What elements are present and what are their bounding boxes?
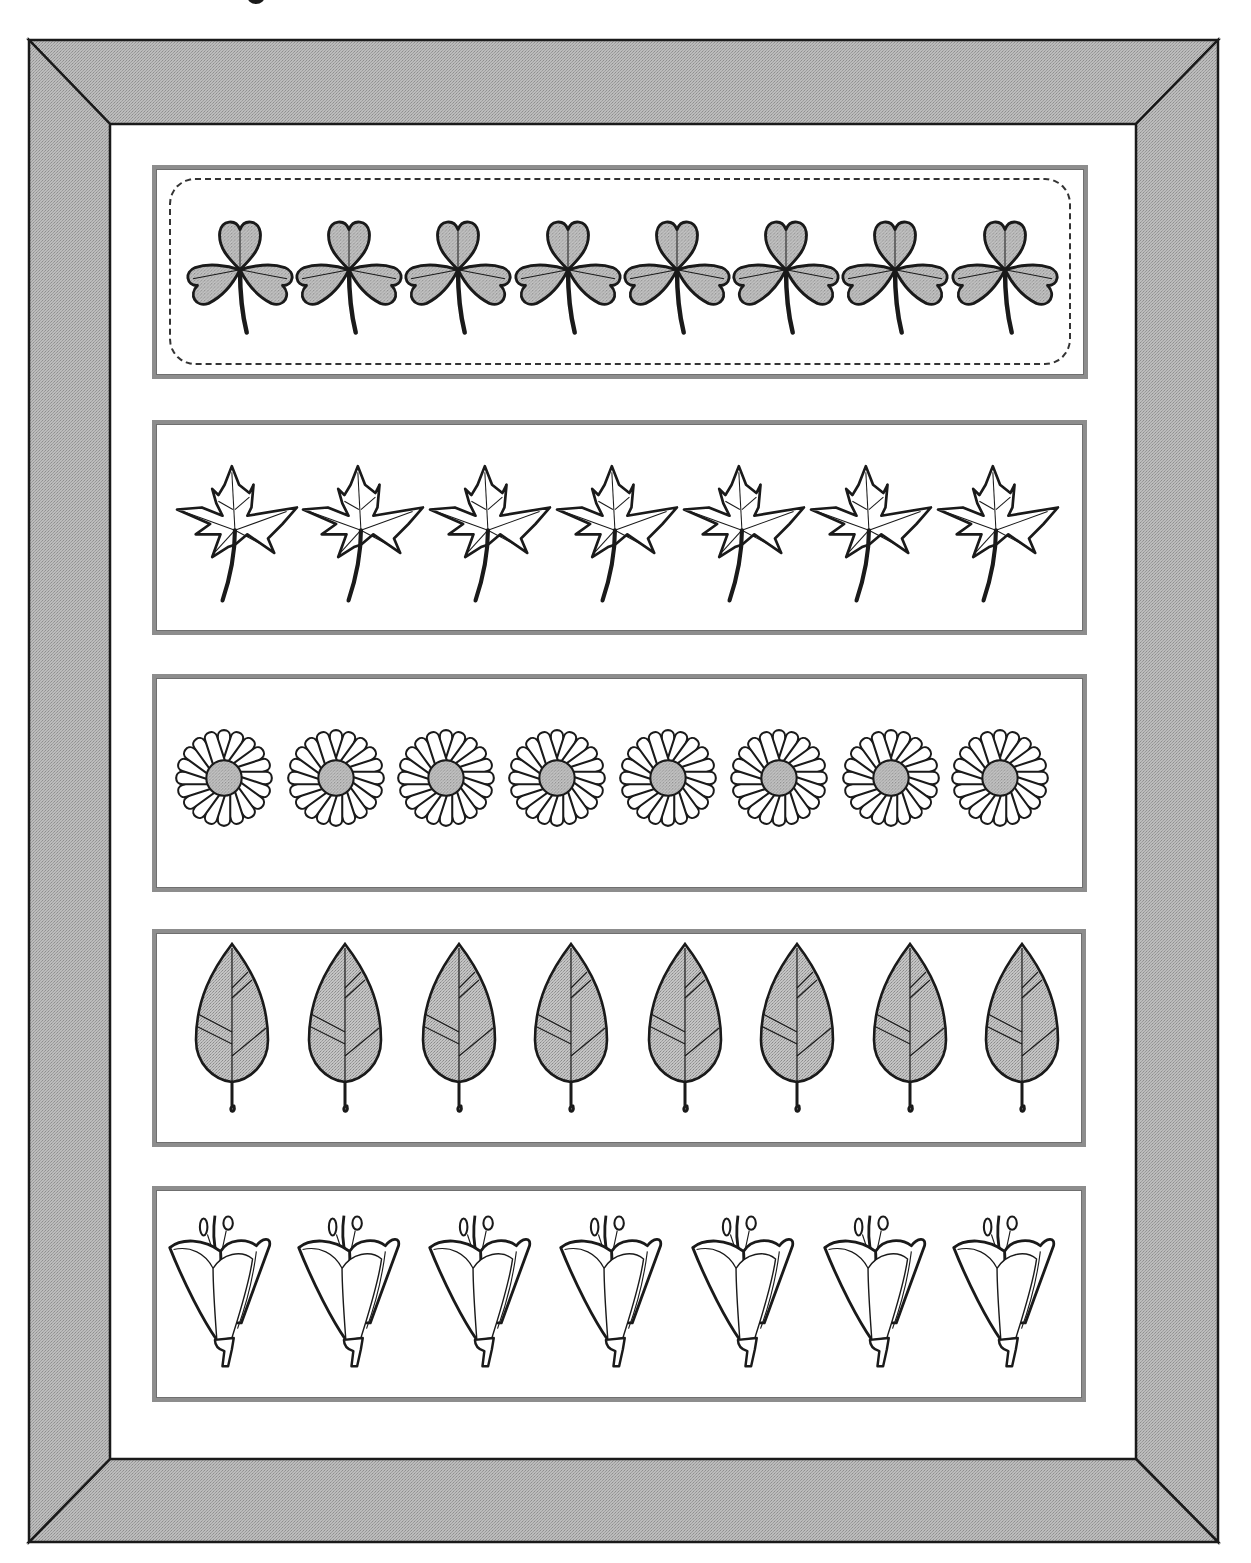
leaf-icon [645,940,725,1120]
clover-icon [730,216,842,339]
daisy-icon [505,726,609,830]
frame-left [29,40,110,1542]
maple-leaf-icon [682,462,806,607]
clover-icon [184,216,296,339]
leaf-icon [757,940,837,1120]
maple-leaf-icon [428,462,552,607]
lily-icon [557,1210,670,1370]
clover-icon [402,216,514,339]
lily-icon [821,1210,934,1370]
clover-icon [621,216,733,339]
daisy-icon [172,726,276,830]
daisy-icon [839,726,943,830]
frame-top [29,40,1218,124]
maple-leaf-icon [809,462,933,607]
clover-icon [512,216,624,339]
maple-leaf-icon [936,462,1060,607]
lily-icon [166,1210,279,1370]
lily-icon [689,1210,802,1370]
frame-bottom [29,1459,1218,1542]
leaf-icon [192,940,272,1120]
lily-icon [295,1210,408,1370]
worksheet-page [0,0,1251,1563]
maple-leaf-icon [555,462,679,607]
daisy-icon [727,726,831,830]
daisy-icon [394,726,498,830]
clover-icon [293,216,405,339]
daisy-icon [284,726,388,830]
leaf-icon [305,940,385,1120]
leaf-icon [982,940,1062,1120]
leaf-icon [419,940,499,1120]
frame-right [1136,40,1218,1542]
maple-leaf-icon [301,462,425,607]
clover-icon [949,216,1061,339]
maple-leaf-icon [175,462,299,607]
clover-icon [839,216,951,339]
leaf-icon [870,940,950,1120]
daisy-icon [616,726,720,830]
lily-icon [426,1210,539,1370]
daisy-icon [948,726,1052,830]
leaf-icon [531,940,611,1120]
lily-icon [950,1210,1063,1370]
